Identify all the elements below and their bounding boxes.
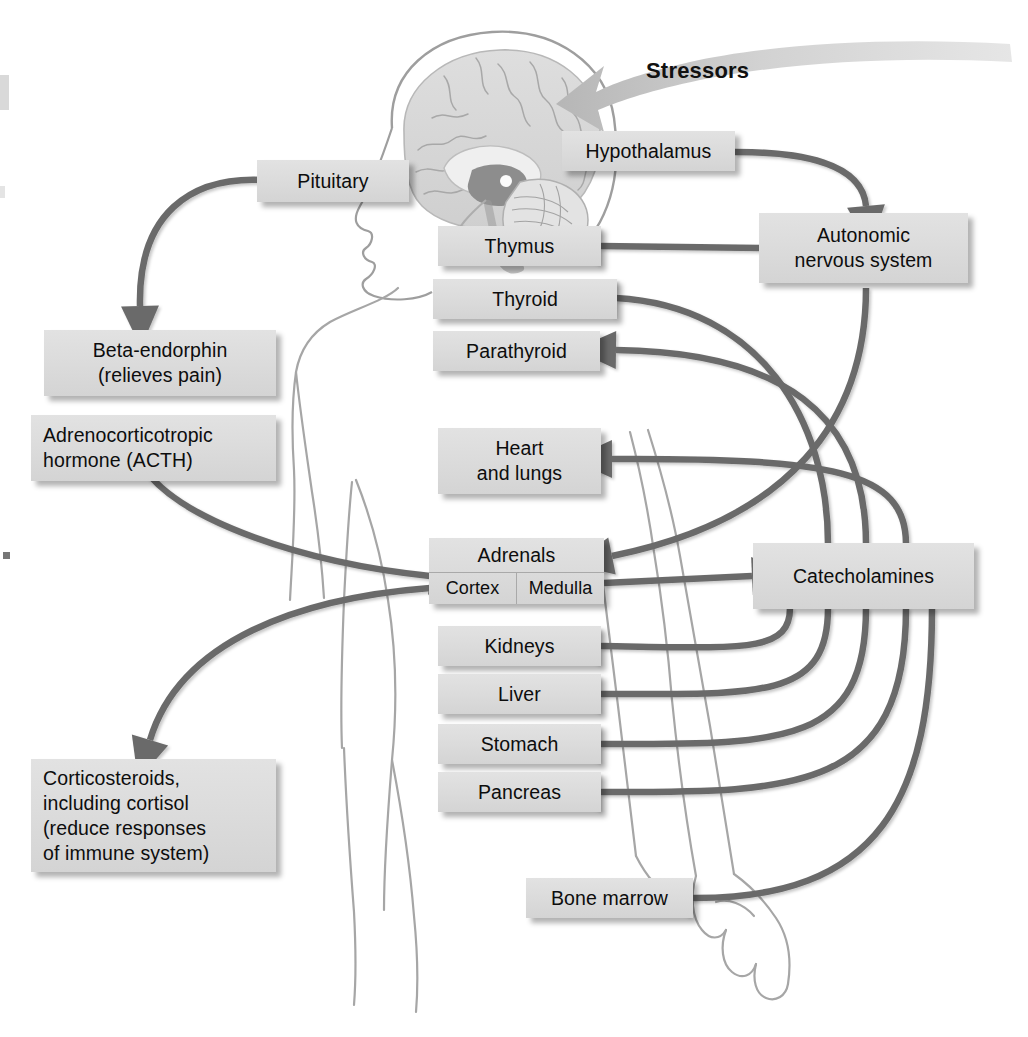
node-heart-and-lungs[interactable]: Heart and lungs xyxy=(438,428,601,494)
node-autonomic-nervous-system[interactable]: Autonomic nervous system xyxy=(759,213,968,283)
node-thymus[interactable]: Thymus xyxy=(438,226,601,266)
stressors-label: Stressors xyxy=(646,58,749,84)
node-thymus-label: Thymus xyxy=(438,234,601,259)
node-beta-endorphin[interactable]: Beta-endorphin (relieves pain) xyxy=(44,330,276,396)
node-catecholamines[interactable]: Catecholamines xyxy=(753,543,974,609)
node-bone-marrow-label: Bone marrow xyxy=(526,886,693,911)
node-stomach-label: Stomach xyxy=(438,732,601,757)
node-catecholamines-label: Catecholamines xyxy=(753,564,974,589)
node-liver[interactable]: Liver xyxy=(438,674,601,714)
node-pancreas-label: Pancreas xyxy=(438,780,601,805)
node-parathyroid-label: Parathyroid xyxy=(433,339,600,364)
node-medulla[interactable]: Medulla xyxy=(517,573,604,604)
node-liver-label: Liver xyxy=(438,682,601,707)
node-hypothalamus-label: Hypothalamus xyxy=(562,139,735,164)
node-kidneys-label: Kidneys xyxy=(438,634,601,659)
node-adrenals-title: Adrenals xyxy=(429,538,604,572)
node-kidneys[interactable]: Kidneys xyxy=(438,626,601,666)
node-stomach[interactable]: Stomach xyxy=(438,724,601,764)
node-autonomic-label: Autonomic nervous system xyxy=(759,223,968,273)
diagram-canvas: Stressors xyxy=(0,0,1028,1037)
node-corticosteroids-label: Corticosteroids, including cortisol (red… xyxy=(43,766,276,866)
node-thyroid[interactable]: Thyroid xyxy=(433,279,617,319)
node-corticosteroids[interactable]: Corticosteroids, including cortisol (red… xyxy=(31,759,276,872)
node-acth[interactable]: Adrenocorticotropic hormone (ACTH) xyxy=(31,415,276,481)
node-acth-label: Adrenocorticotropic hormone (ACTH) xyxy=(43,423,276,473)
node-beta-endorphin-label: Beta-endorphin (relieves pain) xyxy=(44,338,276,388)
node-parathyroid[interactable]: Parathyroid xyxy=(433,331,600,371)
node-adrenals-subcells: Cortex Medulla xyxy=(429,572,604,604)
node-pituitary[interactable]: Pituitary xyxy=(257,160,409,202)
node-adrenals[interactable]: Adrenals Cortex Medulla xyxy=(429,538,604,604)
node-hypothalamus[interactable]: Hypothalamus xyxy=(562,131,735,171)
stressors-arrow xyxy=(0,0,1028,1037)
node-pancreas[interactable]: Pancreas xyxy=(438,772,601,812)
node-heart-lungs-label: Heart and lungs xyxy=(438,436,601,486)
node-pituitary-label: Pituitary xyxy=(257,169,409,194)
node-thyroid-label: Thyroid xyxy=(433,287,617,312)
node-cortex[interactable]: Cortex xyxy=(429,573,517,604)
node-bone-marrow[interactable]: Bone marrow xyxy=(526,878,693,918)
